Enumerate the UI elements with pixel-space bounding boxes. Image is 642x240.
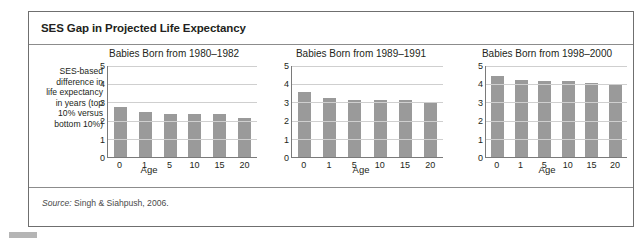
source-note: Source: Singh & Siahpush, 2006.	[42, 198, 169, 208]
y-axis-tick-label: 5	[284, 62, 289, 71]
gridline	[486, 66, 627, 67]
y-axis-tick-label: 3	[478, 98, 483, 107]
gridline	[292, 139, 443, 140]
y-axis-tick-label: 4	[100, 80, 105, 89]
bar	[238, 118, 251, 157]
y-axis-tick-label: 2	[100, 117, 105, 126]
y-axis-ticks: 543210	[278, 66, 289, 158]
source-label: Source:	[42, 198, 72, 208]
y-axis-caption-line: life expectancy	[35, 87, 103, 98]
x-axis-label: Age	[263, 164, 459, 175]
x-axis-label: Age	[35, 164, 263, 175]
y-axis-tick-label: 5	[478, 62, 483, 71]
gridline	[292, 66, 443, 67]
y-axis-tick-label: 4	[478, 80, 483, 89]
bar	[348, 100, 361, 157]
chart-panel-group: Babies Born from 1980–1982 SES-based dif…	[29, 45, 633, 187]
y-axis-caption-line: bottom 10%)	[35, 119, 103, 130]
gridline	[292, 84, 443, 85]
y-axis-ticks: 543210	[94, 66, 105, 158]
chart-panel-1989-1991: Babies Born from 1989–1991 543210 015101…	[263, 45, 459, 187]
y-axis-tick-label: 4	[284, 80, 289, 89]
bar	[562, 81, 575, 157]
x-axis-label: Age	[459, 164, 635, 175]
plot-area	[291, 66, 443, 158]
bar-group	[292, 66, 443, 157]
source-divider	[29, 187, 633, 188]
corner-mark	[9, 232, 37, 238]
y-axis-caption-line: 10% versus	[35, 108, 103, 119]
y-axis-tick-label: 1	[478, 135, 483, 144]
y-axis-tick-label: 1	[100, 135, 105, 144]
y-axis-tick-label: 5	[100, 62, 105, 71]
bar-group	[108, 66, 257, 157]
plot-area	[485, 66, 627, 158]
gridline	[292, 102, 443, 103]
gridline	[108, 139, 257, 140]
gridline	[108, 84, 257, 85]
plot-area-wrapper: 543210 015101520	[107, 66, 257, 158]
y-axis-tick-label: 3	[100, 98, 105, 107]
y-axis-caption-line: in years (top	[35, 98, 103, 109]
gridline	[486, 139, 627, 140]
bar	[323, 98, 336, 157]
figure-container: SES Gap in Projected Life Expectancy Bab…	[28, 11, 634, 227]
figure-title: SES Gap in Projected Life Expectancy	[41, 22, 246, 34]
plot-area	[107, 66, 257, 158]
gridline	[486, 84, 627, 85]
bar	[114, 107, 127, 157]
y-axis-tick-label: 2	[284, 117, 289, 126]
gridline	[108, 66, 257, 67]
bar	[374, 100, 387, 157]
bar	[515, 80, 528, 157]
bar	[538, 81, 551, 157]
bar-group	[486, 66, 627, 157]
panel-title: Babies Born from 1989–1991	[263, 48, 459, 59]
y-axis-tick-label: 0	[478, 154, 483, 163]
gridline	[108, 102, 257, 103]
gridline	[486, 102, 627, 103]
y-axis-caption-line: difference in	[35, 77, 103, 88]
y-axis-tick-label: 1	[284, 135, 289, 144]
bar	[399, 100, 412, 157]
chart-panel-1980-1982: Babies Born from 1980–1982 SES-based dif…	[35, 45, 263, 187]
gridline	[108, 121, 257, 122]
panel-title: Babies Born from 1998–2000	[459, 48, 635, 59]
y-axis-caption-line: SES-based	[35, 66, 103, 77]
y-axis-tick-label: 2	[478, 117, 483, 126]
gridline	[486, 121, 627, 122]
bar	[491, 76, 504, 157]
bar	[139, 112, 152, 157]
plot-area-wrapper: 543210 015101520	[485, 66, 627, 158]
y-axis-tick-label: 0	[100, 154, 105, 163]
y-axis-tick-label: 3	[284, 98, 289, 107]
y-axis-ticks: 543210	[472, 66, 483, 158]
source-citation: Singh & Siahpush, 2006.	[72, 198, 169, 208]
bar	[424, 103, 437, 157]
y-axis-caption: SES-based difference in life expectancy …	[35, 66, 103, 130]
chart-panel-1998-2000: Babies Born from 1998–2000 543210 015101…	[459, 45, 635, 187]
plot-area-wrapper: 543210 015101520	[291, 66, 443, 158]
gridline	[292, 121, 443, 122]
y-axis-tick-label: 0	[284, 154, 289, 163]
